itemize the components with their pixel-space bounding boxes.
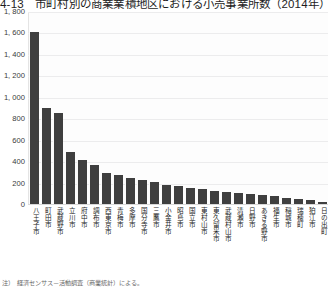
y-axis-tick-labels: 1, 8001, 6001, 4001, 2001, 0008006004002… [0, 12, 28, 205]
bar [29, 32, 39, 205]
x-axis-label: 小金井市 [162, 207, 169, 235]
bar [185, 188, 195, 205]
x-axis-label: 瑞穂町 [294, 207, 301, 228]
y-axis-tick-400: 400 [12, 158, 25, 166]
x-axis-category-labels: 八王子市町田市武蔵野市立川市府中市調布市西東京市青梅市多摩市国分寺市三鷹市小金井… [28, 207, 328, 277]
bar-series [28, 12, 328, 205]
x-axis-label: 西東京市 [102, 207, 109, 235]
x-axis-label: 日野市 [246, 207, 253, 228]
x-axis-label: 武蔵野市 [54, 207, 61, 235]
y-axis-tick-1800: 1, 800 [4, 8, 25, 16]
bar [89, 165, 99, 205]
x-axis-label: 武蔵村山市 [222, 207, 229, 242]
y-axis-tick-200: 200 [12, 180, 25, 188]
x-axis-label: 日の出町 [318, 207, 325, 235]
x-axis-label: 府中市 [78, 207, 85, 228]
x-axis-label: 多摩市 [126, 207, 133, 228]
x-axis-label: 狛江市 [306, 207, 313, 228]
y-axis-tick-0: 0 [21, 201, 25, 209]
x-axis-label: 福生市 [270, 207, 277, 228]
x-axis-label: あきる野市 [258, 207, 265, 242]
y-axis-tick-800: 800 [12, 115, 25, 123]
bar [113, 175, 123, 205]
plot-area [28, 12, 328, 205]
x-axis-label: 町田市 [42, 207, 49, 228]
bar [53, 113, 63, 205]
x-axis-label: 昭島市 [174, 207, 181, 228]
x-axis-label: 東村山市 [198, 207, 205, 235]
bar [197, 189, 207, 205]
x-axis-label: 青梅市 [114, 207, 121, 228]
x-axis-label: 三鷹市 [150, 207, 157, 228]
y-axis-tick-1400: 1, 400 [4, 51, 25, 59]
x-axis-label: 立川市 [66, 207, 73, 228]
x-axis-label: 東久留米市 [210, 207, 217, 242]
bar [161, 185, 171, 205]
x-axis-label: 八王子市 [30, 207, 37, 235]
chart-title: 4-13 市町村別の商業業積地区における小売事業所数（2014年） [0, 0, 336, 12]
x-axis-label: 国立市 [186, 207, 193, 228]
bar [101, 173, 111, 205]
bar [149, 182, 159, 205]
x-axis-label: 調布市 [90, 207, 97, 228]
chart-footnote: 注） 経済センサス－活動調査（商業統計）による。 [2, 278, 336, 288]
bar [209, 191, 219, 205]
y-axis-tick-1600: 1, 600 [4, 29, 25, 37]
x-axis-line [28, 204, 328, 205]
bar [137, 180, 147, 205]
bar [125, 178, 135, 205]
x-axis-label: 稲城市 [282, 207, 289, 228]
y-axis-tick-600: 600 [12, 137, 25, 145]
bar [41, 108, 51, 205]
bar [77, 160, 87, 205]
y-axis-tick-1000: 1, 000 [4, 94, 25, 102]
bar [173, 186, 183, 205]
x-axis-label: 国分寺市 [138, 207, 145, 235]
bar [65, 152, 75, 205]
y-axis-tick-1200: 1, 200 [4, 72, 25, 80]
x-axis-label: 清瀬市 [234, 207, 241, 228]
